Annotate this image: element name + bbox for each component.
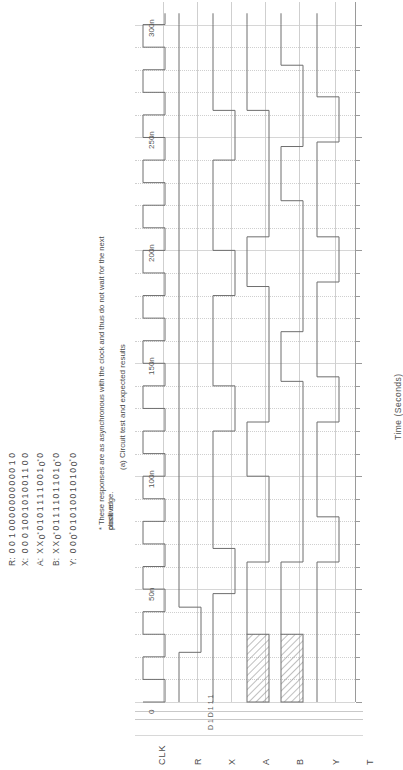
- table-cell: 0: [65, 467, 81, 473]
- signal-label-y: Y: [331, 758, 341, 765]
- axis-tick: [356, 589, 362, 590]
- baseline-rule-2: [135, 719, 363, 720]
- table-cell: 0: [6, 493, 19, 499]
- axis-tick-minor: [356, 70, 360, 71]
- table-cell: 0: [19, 531, 32, 540]
- expected-results-table: R:001000000000010X:000100101001100A:XX0*…: [6, 452, 82, 566]
- waveform-path: [281, 13, 303, 634]
- axis-tick-minor: [356, 657, 360, 658]
- table-row-label: A:: [33, 554, 49, 566]
- table-cell: X: [49, 547, 65, 554]
- table-cell: 0: [19, 480, 32, 486]
- mid-annotation: D 1 D 1 1 1: [207, 695, 214, 730]
- table-cell: 0*: [65, 531, 81, 540]
- axis-tick-minor: [356, 92, 360, 93]
- table-cell: 1: [33, 467, 49, 473]
- table-cell: 0: [65, 547, 81, 554]
- axis-tick-minor: [356, 386, 360, 387]
- table-cell: 0: [19, 486, 32, 492]
- axis-tick-minor: [356, 273, 360, 274]
- table-cell: 0: [6, 499, 19, 505]
- time-axis: [355, 2, 364, 702]
- baseline-rule-1: [135, 711, 363, 712]
- axis-tick-label: 100n: [147, 470, 156, 488]
- table-cell: 0*: [65, 459, 81, 468]
- axis-tick-minor: [356, 634, 360, 635]
- axis-tick-minor: [356, 454, 360, 455]
- axis-tick-label: 200n: [147, 245, 156, 263]
- axis-tick: [356, 702, 362, 703]
- table-cell: 0: [6, 486, 19, 492]
- table-cell: 0: [33, 512, 49, 518]
- table-cell: 0: [6, 519, 19, 525]
- table-row: X:000100101001100: [19, 452, 32, 566]
- table-cell: 0: [49, 473, 65, 479]
- table-cell: 0: [65, 480, 81, 486]
- timing-diagram: Time (Seconds) CLKRXABYT D 1 D 1 1 1 050…: [135, 0, 400, 770]
- table-cell: X: [49, 540, 65, 547]
- table-cell: 0: [49, 493, 65, 499]
- table-row: Y:000*01010010100*0: [65, 452, 81, 566]
- table-cell: 0: [65, 525, 81, 531]
- axis-tick-minor: [356, 544, 360, 545]
- table-cell: X: [33, 547, 49, 554]
- table-cell: 0: [6, 452, 19, 459]
- axis-tick-minor: [356, 408, 360, 409]
- axis-tick-minor: [356, 679, 360, 680]
- table-cell: 0: [33, 525, 49, 531]
- table-cell: 1: [33, 493, 49, 499]
- table-cell: 0: [19, 512, 32, 518]
- table-cell: 0: [6, 525, 19, 531]
- table-cell: 1: [33, 519, 49, 525]
- trace-canvas: [135, 2, 355, 702]
- table-cell: 1: [49, 499, 65, 505]
- axis-title: Time (Seconds): [393, 373, 403, 440]
- table-cell: 1: [33, 506, 49, 512]
- table: R:001000000000010X:000100101001100A:XX0*…: [6, 452, 82, 566]
- table-cell: 0: [65, 512, 81, 518]
- axis-tick-minor: [356, 521, 360, 522]
- signal-label-a: A: [261, 758, 271, 765]
- waveform-path: [179, 13, 201, 702]
- axis-tick: [356, 476, 362, 477]
- axis-tick-minor: [356, 431, 360, 432]
- table-cell: 0*: [33, 459, 49, 468]
- table-cell: 0: [19, 519, 32, 525]
- table-cell: 0: [6, 512, 19, 518]
- table-cell: 0: [19, 540, 32, 547]
- table-cell: 0: [6, 480, 19, 486]
- signal-label-x: X: [227, 758, 237, 765]
- table-cell: 0: [19, 452, 32, 459]
- table-cell: 1: [19, 525, 32, 531]
- axis-tick-minor: [356, 205, 360, 206]
- axis-tick: [356, 137, 362, 138]
- table-cell: 0: [19, 459, 32, 468]
- table-cell: 0: [6, 547, 19, 554]
- axis-tick-minor: [356, 567, 360, 568]
- footnote-line-2: clock edge.: [106, 492, 115, 530]
- table-row: R:001000000000010: [6, 452, 19, 566]
- table-cell: 1: [49, 467, 65, 473]
- table-cell: 1: [19, 473, 32, 479]
- signal-label-r: R: [193, 758, 203, 766]
- table-cell: 0: [49, 452, 65, 459]
- table-cell: 0: [33, 452, 49, 459]
- table-row: B:XX0*01111011010*0: [49, 452, 65, 566]
- signal-label-t: T: [365, 759, 375, 766]
- table-cell: 0: [6, 473, 19, 479]
- table-cell: 0: [33, 480, 49, 486]
- table-cell: 0: [49, 525, 65, 531]
- table-cell: 1: [19, 506, 32, 512]
- axis-tick-minor: [356, 612, 360, 613]
- table-cell: 0: [65, 452, 81, 459]
- axis-tick-label: 150n: [147, 357, 156, 375]
- footnote-line-1: * These responses are as asynchronous wi…: [97, 227, 115, 530]
- table-cell: 0: [33, 473, 49, 479]
- unknown-state-block: [247, 634, 269, 702]
- signal-label-b: B: [295, 758, 305, 765]
- table-cell: 1: [19, 467, 32, 473]
- axis-tick-label: 0: [147, 710, 156, 714]
- waveform-path: [213, 13, 235, 702]
- axis-tick-label: 250n: [147, 132, 156, 150]
- table-row-label: Y:: [65, 554, 81, 566]
